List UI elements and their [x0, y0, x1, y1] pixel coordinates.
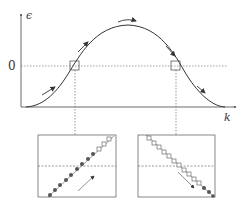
flow-arrows	[42, 20, 205, 95]
y-axis-label: ϵ	[26, 10, 32, 21]
right-inset	[138, 135, 215, 198]
band-diagram	[0, 0, 244, 207]
zero-label: 0	[8, 60, 16, 72]
arrow-icon	[197, 86, 205, 93]
arrow-icon	[118, 20, 136, 22]
arrow-icon	[166, 46, 175, 56]
x-axis-label: k	[224, 112, 231, 123]
left-inset	[38, 135, 116, 197]
